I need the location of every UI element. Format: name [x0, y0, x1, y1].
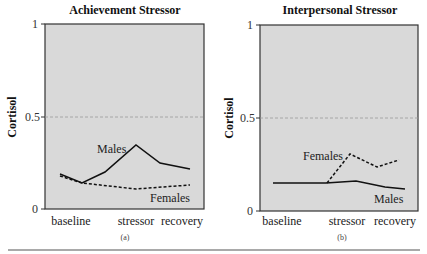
series-label-males: Males — [97, 142, 127, 156]
y-tick-label: 1 — [32, 17, 38, 31]
x-tick-label: stressor — [329, 214, 366, 228]
panel-caption: (b) — [337, 233, 347, 242]
x-tick-label: baseline — [51, 214, 90, 228]
series-label-females: Females — [303, 149, 343, 163]
series-label-males: Males — [374, 192, 404, 206]
y-axis-label: Cortisol — [222, 97, 236, 139]
y-axis-label: Cortisol — [5, 96, 19, 138]
x-tick-label: stressor — [118, 214, 155, 228]
panel-a: Achievement Stressor 1 0.5 0 Cortisol Ma… — [5, 3, 204, 242]
chart-title: Achievement Stressor — [69, 3, 181, 17]
figure: Achievement Stressor 1 0.5 0 Cortisol Ma… — [0, 0, 427, 254]
y-tick-label: 0 — [32, 202, 38, 216]
chart-title: Interpersonal Stressor — [283, 3, 398, 17]
x-tick-label: baseline — [262, 214, 301, 228]
series-label-females: Females — [150, 191, 190, 205]
y-tick-label: 0.5 — [240, 111, 255, 125]
y-tick-label: 0.5 — [25, 110, 40, 124]
plot-area — [45, 24, 204, 209]
panel-caption: (a) — [121, 233, 130, 242]
x-tick-label: recovery — [161, 214, 203, 228]
panel-b: Interpersonal Stressor 1 0.5 0 Cortisol … — [222, 3, 418, 242]
x-tick-label: recovery — [374, 214, 416, 228]
y-tick-label: 0 — [247, 204, 253, 218]
y-tick-label: 1 — [247, 18, 253, 32]
